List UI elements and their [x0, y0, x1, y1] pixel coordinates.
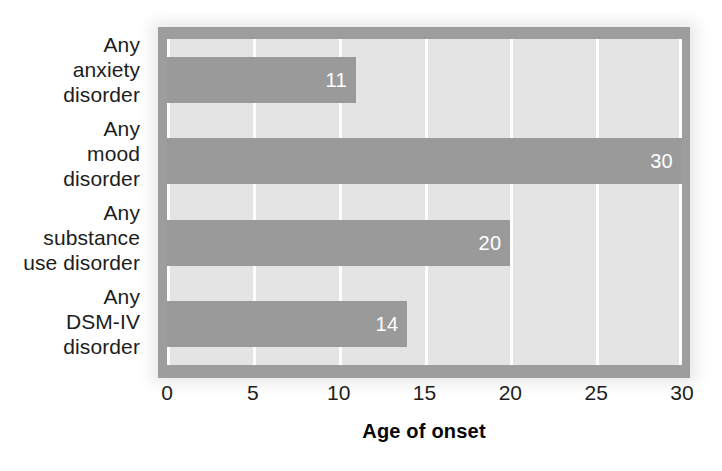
y-axis-label-line: DSM-IV: [66, 309, 140, 334]
y-axis-category-labels: Any anxiety disorder Any mood disorder A…: [0, 27, 150, 363]
x-axis-tick-15: 15: [413, 381, 436, 405]
y-axis-label-line: disorder: [63, 334, 140, 359]
y-axis-label-line: Any: [104, 32, 141, 57]
y-axis-label-line: substance: [43, 225, 140, 250]
bar[interactable]: 30: [167, 138, 682, 184]
x-axis-tick-30: 30: [670, 381, 693, 405]
x-axis-tick-labels: 051015202530: [167, 381, 682, 411]
plot-canvas: 11302014: [167, 39, 682, 365]
bar[interactable]: 14: [167, 301, 407, 347]
bar-row: 14: [167, 284, 682, 366]
plot-frame-left: [158, 27, 167, 378]
x-axis-tick-10: 10: [327, 381, 350, 405]
bar[interactable]: 20: [167, 220, 510, 266]
y-axis-label-line: disorder: [63, 166, 140, 191]
bar[interactable]: 11: [167, 57, 356, 103]
bar-value-label: 14: [375, 314, 398, 334]
y-axis-label-line: Any: [104, 284, 141, 309]
bar-row: 30: [167, 121, 682, 203]
y-axis-label-any-mood-disorder: Any mood disorder: [0, 111, 150, 195]
plot-frame-bottom: [158, 365, 690, 378]
y-axis-label-line: Any: [104, 116, 141, 141]
plot-frame-top: [158, 27, 690, 39]
bar-value-label: 20: [478, 233, 501, 253]
y-axis-label-line: use disorder: [23, 250, 140, 275]
x-axis-tick-0: 0: [161, 381, 173, 405]
y-axis-label-line: anxiety: [73, 57, 140, 82]
bar-value-label: 11: [325, 70, 346, 90]
y-axis-label-line: disorder: [63, 82, 140, 107]
x-axis-tick-25: 25: [584, 381, 607, 405]
bar-chart-figure: Any anxiety disorder Any mood disorder A…: [0, 0, 722, 471]
plot-frame-right: [682, 27, 690, 378]
x-axis-tick-20: 20: [499, 381, 522, 405]
bar-series: 11302014: [167, 39, 682, 365]
bar-value-label: 30: [650, 151, 673, 171]
x-axis-tick-5: 5: [247, 381, 259, 405]
bar-row: 20: [167, 202, 682, 284]
y-axis-label-any-dsm-iv-disorder: Any DSM-IV disorder: [0, 279, 150, 363]
y-axis-label-line: Any: [104, 200, 141, 225]
y-axis-label-any-anxiety-disorder: Any anxiety disorder: [0, 27, 150, 111]
y-axis-label-line: mood: [87, 141, 140, 166]
x-axis-title: Age of onset: [158, 420, 690, 443]
plot-area: 11302014: [158, 27, 690, 378]
bar-row: 11: [167, 39, 682, 121]
y-axis-label-any-substance-use-disorder: Any substance use disorder: [0, 195, 150, 279]
